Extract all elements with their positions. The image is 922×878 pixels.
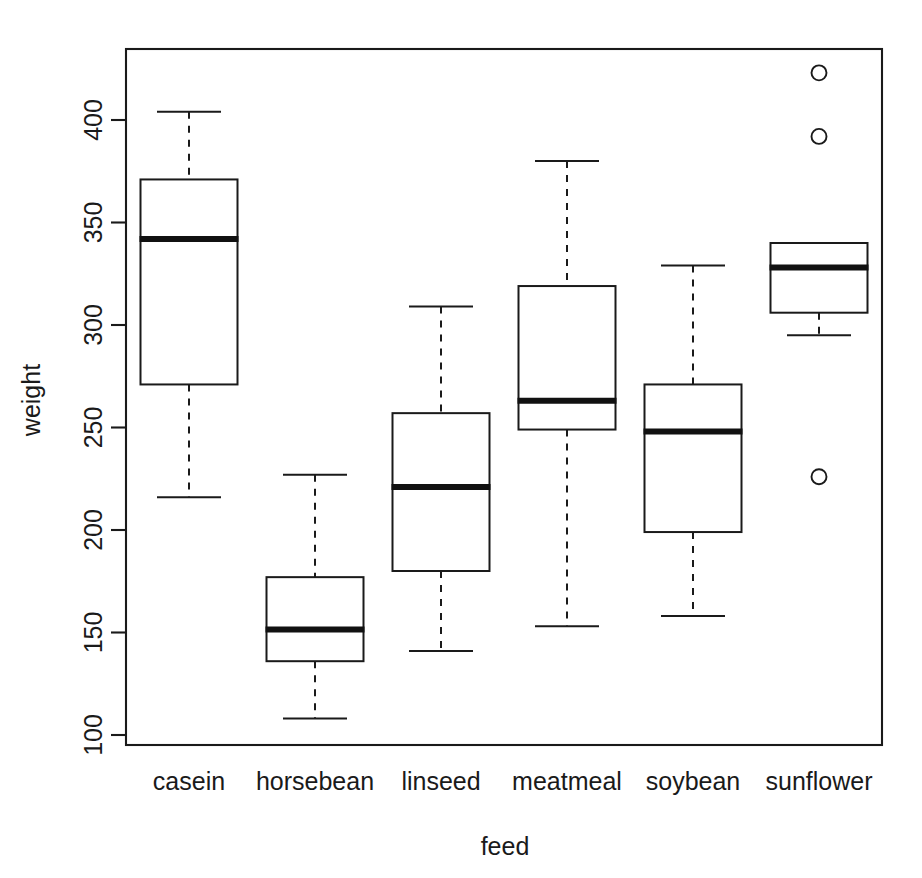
box-iqr bbox=[771, 243, 868, 313]
boxplot-figure: 100150200250300350400 caseinhorsebeanlin… bbox=[0, 0, 922, 878]
y-tick-label: 300 bbox=[79, 304, 107, 346]
y-axis-title: weight bbox=[17, 364, 45, 437]
x-tick-label-linseed: linseed bbox=[401, 767, 480, 795]
box-iqr bbox=[645, 384, 742, 532]
y-tick-label: 200 bbox=[79, 509, 107, 551]
x-tick-label-sunflower: sunflower bbox=[766, 767, 873, 795]
box-iqr bbox=[393, 413, 490, 571]
y-tick-label: 350 bbox=[79, 202, 107, 244]
y-tick-label: 250 bbox=[79, 407, 107, 449]
boxplot-canvas: 100150200250300350400 caseinhorsebeanlin… bbox=[0, 0, 922, 878]
x-tick-label-soybean: soybean bbox=[646, 767, 741, 795]
x-tick-label-casein: casein bbox=[153, 767, 225, 795]
y-tick-label: 400 bbox=[79, 99, 107, 141]
y-tick-label: 150 bbox=[79, 612, 107, 654]
x-axis-title: feed bbox=[481, 832, 530, 860]
box-iqr bbox=[141, 179, 238, 384]
box-iqr bbox=[519, 286, 616, 430]
y-tick-label: 100 bbox=[79, 714, 107, 756]
box-iqr bbox=[267, 577, 364, 661]
x-axis-labels: caseinhorsebeanlinseedmeatmealsoybeansun… bbox=[153, 767, 873, 795]
x-tick-label-horsebean: horsebean bbox=[256, 767, 374, 795]
x-tick-label-meatmeal: meatmeal bbox=[512, 767, 622, 795]
